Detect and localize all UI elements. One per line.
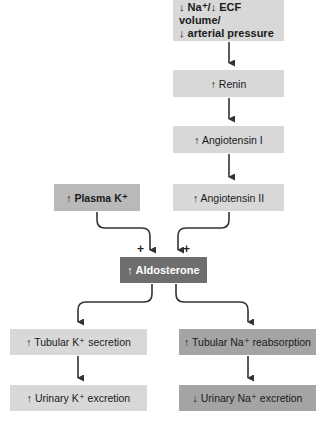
urinary-k-excretion-node: ↑ Urinary K⁺ excretion: [10, 385, 147, 411]
tubular-na-reabsorption-node: ↑ Tubular Na⁺ reabsorption: [179, 329, 316, 355]
connector-arrows: [0, 0, 332, 427]
angiotensin-1-node: ↑ Angiotensin I: [173, 126, 284, 153]
renin-node: ↑ Renin: [173, 70, 284, 97]
trigger-line-1: ↓ Na⁺/↓ ECF volume/: [179, 1, 284, 27]
trigger-node: ↓ Na⁺/↓ ECF volume/ ↓ arterial pressure: [173, 0, 284, 41]
angiotensin-2-stimulates-sign: +: [183, 242, 190, 256]
plasma-k-node: ↑ Plasma K⁺: [54, 184, 140, 211]
angiotensin-2-node: ↑ Angiotensin II: [173, 184, 284, 211]
aldosterone-node: ↑ Aldosterone: [120, 257, 207, 283]
plasma-k-stimulates-sign: +: [137, 242, 144, 256]
tubular-k-secretion-node: ↑ Tubular K⁺ secretion: [10, 329, 147, 355]
urinary-na-excretion-node: ↓ Urinary Na⁺ excretion: [179, 385, 316, 411]
trigger-line-2: ↓ arterial pressure: [179, 27, 284, 40]
